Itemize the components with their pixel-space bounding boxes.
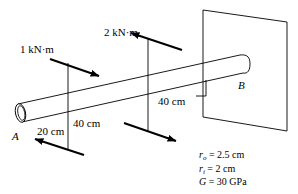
- inner-radius-value: = 2 cm: [207, 163, 235, 174]
- outer-radius-value: = 2.5 cm: [209, 149, 244, 160]
- dimension-left-label: 20 cm: [37, 126, 64, 137]
- torque-1-top-arrow: [50, 59, 99, 76]
- torsion-shaft-figure: 1 kN·m 2 kN·m 20 cm 40 cm 40 cm A B ro =…: [0, 0, 298, 194]
- property-shear-modulus: G = 30 GPa: [199, 176, 247, 187]
- point-a-label: A: [12, 131, 19, 142]
- dimension-right-label: 40 cm: [158, 96, 185, 107]
- torque-1-bottom-arrow: [35, 139, 84, 155]
- outer-radius-subscript: o: [203, 154, 207, 162]
- figure-canvas: [0, 0, 298, 194]
- inner-radius-subscript: i: [203, 167, 205, 175]
- torque-2-bottom-arrow: [124, 123, 176, 141]
- shear-modulus-symbol: G: [199, 176, 206, 187]
- properties-block: ro = 2.5 cm ri = 2 cm G = 30 GPa: [199, 149, 247, 188]
- shear-modulus-value: = 30 GPa: [209, 176, 247, 187]
- torque-couple-2: [124, 33, 182, 141]
- dimension-mid-label: 40 cm: [73, 118, 100, 129]
- property-outer-radius: ro = 2.5 cm: [199, 149, 247, 162]
- point-b-label: B: [238, 80, 245, 91]
- torque-1-label: 1 kN·m: [20, 44, 54, 55]
- property-inner-radius: ri = 2 cm: [199, 163, 247, 176]
- torque-2-label: 2 kN·m: [104, 27, 138, 38]
- torque-2-top-arrow: [131, 33, 182, 50]
